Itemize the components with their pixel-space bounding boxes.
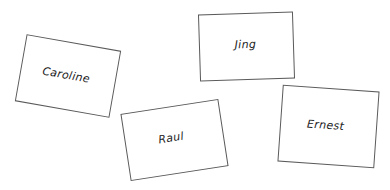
name-card-ernest[interactable]: Ernest [277, 85, 379, 169]
name-card-label: Caroline [42, 65, 91, 84]
name-card-canvas: Caroline Jing Raul Ernest [0, 0, 390, 190]
name-card-label: Jing [235, 39, 257, 51]
name-card-label: Ernest [307, 119, 345, 133]
name-card-jing[interactable]: Jing [198, 12, 295, 82]
name-card-caroline[interactable]: Caroline [15, 34, 121, 118]
name-card-raul[interactable]: Raul [120, 99, 228, 181]
name-card-label: Raul [158, 130, 185, 145]
